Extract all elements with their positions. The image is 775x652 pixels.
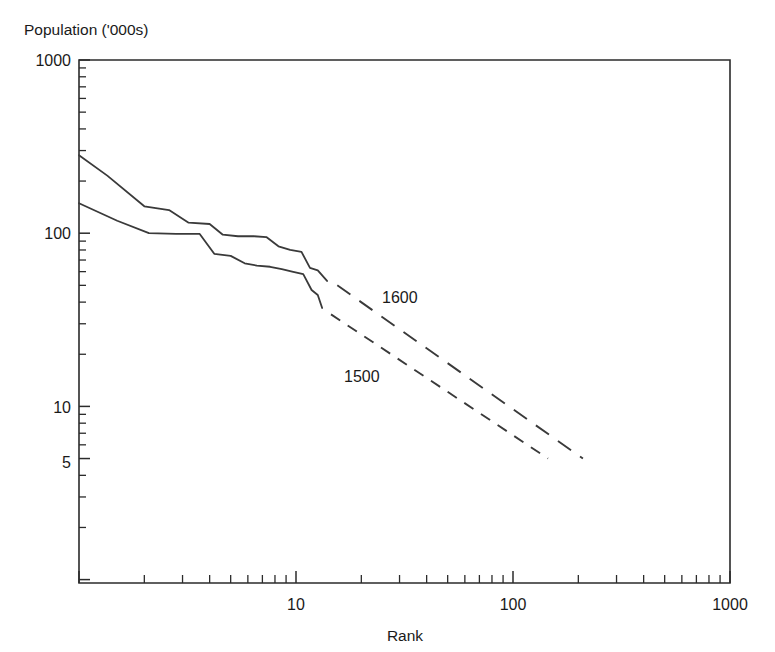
x-axis-ticks (79, 571, 730, 583)
data-curves (79, 155, 583, 458)
y-tick-label-100: 100 (44, 225, 71, 242)
y-tick-label-1000: 1000 (35, 52, 71, 69)
axis-frame-rect (79, 60, 730, 583)
x-tick-label-1000: 1000 (712, 596, 748, 613)
y-axis-tick-labels: 1000 100 10 5 (35, 52, 71, 471)
curve-solid-1600 (79, 155, 327, 281)
x-axis-title: Rank (387, 627, 423, 644)
x-tick-label-100: 100 (500, 596, 527, 613)
y-axis-title: Population ('000s) (24, 21, 148, 38)
series-label-1600: 1600 (382, 289, 418, 306)
curve-solid-1500 (79, 203, 322, 308)
curve-dashed-1500 (331, 314, 548, 458)
x-axis-tick-labels: 10 100 1000 (287, 596, 748, 613)
chart-svg: 1000 100 10 5 10 100 1000 Population ('0… (0, 0, 775, 652)
y-axis-ticks (79, 60, 90, 580)
chart-figure: 1000 100 10 5 10 100 1000 Population ('0… (0, 0, 775, 652)
plot-frame (79, 60, 730, 583)
series-annotations: 1600 1500 (344, 289, 418, 385)
y-tick-label-5: 5 (62, 454, 71, 471)
y-tick-label-10: 10 (53, 399, 71, 416)
x-tick-label-10: 10 (287, 596, 305, 613)
series-label-1500: 1500 (344, 368, 380, 385)
